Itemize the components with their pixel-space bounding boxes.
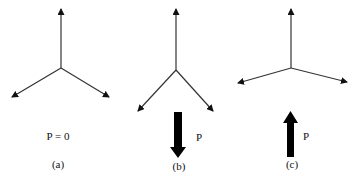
right-arrow-icon [176,70,213,111]
right-arrow-icon [291,68,347,82]
load-label-b: P [196,131,202,143]
left-arrow-icon [238,68,291,83]
panel-a: P = 0 (a) [12,9,109,171]
caption-c: (c) [286,158,299,171]
caption-a: (a) [52,158,65,171]
load-down-arrow-icon [170,112,186,158]
load-label-c: P [303,130,309,142]
panel-c: P (c) [238,9,347,171]
panel-b: P (b) [138,9,213,173]
left-arrow-icon [138,70,176,111]
left-arrow-icon [12,68,61,97]
caption-b: (b) [173,160,186,173]
load-label-a: P = 0 [47,130,70,142]
load-up-arrow-icon [283,111,298,157]
right-arrow-icon [61,68,109,97]
three-member-joint-diagram: P = 0 (a) P (b) P (c) [0,0,353,179]
